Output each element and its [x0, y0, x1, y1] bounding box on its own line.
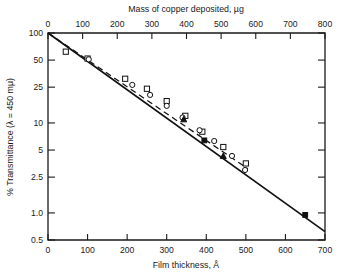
marker-open-square — [243, 161, 248, 166]
bottom-tick-label: 100 — [80, 245, 95, 255]
top-tick-label: 800 — [318, 19, 333, 29]
top-tick-label: 300 — [145, 19, 160, 29]
marker-open-square — [63, 49, 68, 54]
bottom-tick-label: 500 — [239, 245, 254, 255]
marker-open-circle — [164, 103, 169, 108]
marker-open-circle — [197, 128, 202, 133]
y-tick-label: 10 — [33, 118, 43, 128]
marker-open-circle — [130, 82, 135, 87]
marker-open-circle — [229, 153, 234, 158]
y-tick-label: 1.0 — [31, 208, 43, 218]
marker-open-circle — [242, 167, 247, 172]
bottom-tick-label: 400 — [199, 245, 214, 255]
bottom-tick-label: 200 — [120, 245, 135, 255]
bottom-axis-title: Film thickness, Å — [153, 260, 220, 270]
bottom-tick-label: 700 — [318, 245, 333, 255]
y-tick-label: 25 — [33, 82, 43, 92]
top-tick-label: 100 — [75, 19, 90, 29]
bottom-tick-label: 0 — [46, 245, 51, 255]
marker-open-square — [123, 76, 128, 81]
top-tick-label: 0 — [46, 19, 51, 29]
chart-background — [0, 0, 349, 280]
y-axis-title: % Transmittance (λ = 450 mμ) — [5, 78, 15, 196]
marker-open-square — [221, 144, 226, 149]
marker-open-circle — [212, 138, 217, 143]
bottom-tick-label: 300 — [160, 245, 175, 255]
y-tick-label: 2.5 — [31, 172, 43, 182]
y-tick-label: 50 — [33, 55, 43, 65]
top-tick-label: 500 — [214, 19, 229, 29]
y-tick-label: 5 — [38, 145, 43, 155]
top-tick-label: 200 — [110, 19, 125, 29]
bottom-tick-label: 600 — [278, 245, 293, 255]
transmittance-vs-film-thickness-chart: 0100200300400500600700800 01002003004005… — [0, 0, 349, 280]
marker-open-circle — [86, 57, 91, 62]
marker-filled-square — [303, 213, 308, 218]
top-tick-label: 600 — [249, 19, 264, 29]
top-axis-title: Mass of copper deposited, µg — [128, 4, 244, 14]
marker-filled-square — [202, 138, 207, 143]
y-tick-label: 0.5 — [31, 235, 43, 245]
y-tick-label: 100 — [29, 28, 44, 38]
marker-open-circle — [147, 92, 152, 97]
figure-container: 0100200300400500600700800 01002003004005… — [0, 0, 349, 280]
top-tick-label: 400 — [179, 19, 194, 29]
top-tick-label: 700 — [283, 19, 298, 29]
marker-open-square — [144, 86, 149, 91]
